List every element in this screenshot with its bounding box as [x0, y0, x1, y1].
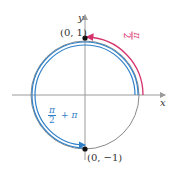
pi-over-2-plus-pi-label: π 2 + π: [48, 106, 77, 125]
pi-over-2-label-num: π: [131, 32, 141, 40]
x-axis-label: x: [160, 98, 166, 108]
pi-over-2-label-den: 2: [122, 33, 131, 39]
point-0-neg1: [82, 146, 87, 151]
pi-over-2-plus-pi-label-den: 2: [49, 116, 55, 125]
pi-over-2-plus-pi-label-suffix: + π: [61, 110, 77, 120]
point-label-0-1: (0, 1): [60, 28, 87, 38]
point-label-0-neg1: (0, −1): [87, 153, 122, 163]
y-axis-label: y: [78, 13, 84, 23]
pi-over-2-label: π 2: [122, 32, 141, 40]
unit-circle-diagram: [0, 0, 177, 174]
